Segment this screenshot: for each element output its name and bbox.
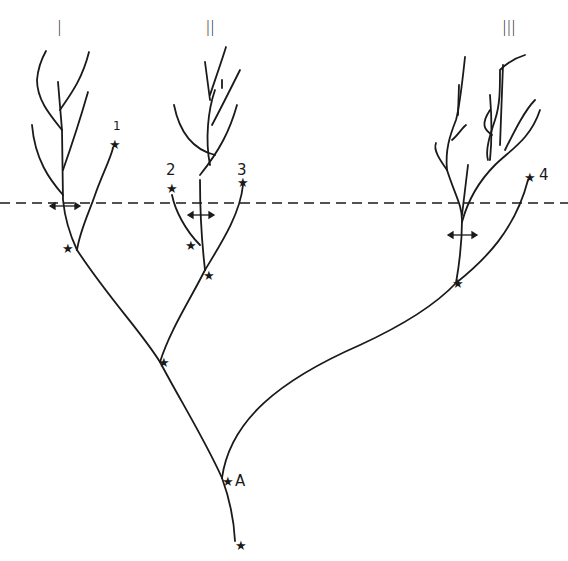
star-icon-tip-4: ★	[524, 170, 536, 185]
clade-label-II: II	[206, 18, 215, 40]
clade-II-top-right	[210, 47, 226, 95]
star-icon-root: ★	[235, 538, 247, 553]
clade-II-left-branch	[200, 105, 237, 175]
star-icon-tip-2: ★	[166, 181, 178, 196]
star-icon-I-II-node: ★	[158, 355, 170, 370]
clade-III-right-mid	[490, 95, 492, 160]
node-label-A: A	[235, 474, 245, 489]
double-arrow-clade-I	[50, 203, 80, 209]
branch-A-to-I-II-node	[160, 362, 222, 478]
clade-I-main-stem	[62, 130, 77, 250]
clade-III-left-main	[447, 57, 465, 170]
clade-III-stem	[447, 170, 462, 283]
branch-to-clade-II	[160, 270, 205, 362]
clade-III-left-twig-1	[435, 143, 447, 170]
star-icon-clade-II-inner-node: ★	[185, 238, 197, 253]
clade-I-lineage-1	[77, 148, 113, 250]
clade-I-upper-mid	[58, 82, 62, 130]
clade-label-III: III	[502, 18, 515, 40]
branch-to-clade-I	[77, 250, 160, 362]
clade-I-mid-right	[63, 92, 88, 170]
star-icon-clade-II-node: ★	[203, 268, 215, 283]
clade-II-stem	[200, 180, 205, 270]
star-icon-clade-III-node: ★	[452, 276, 464, 291]
clade-label-I: I	[58, 18, 63, 40]
star-icon-tip-1: ★	[109, 137, 121, 152]
clade-II-lineage-3	[205, 185, 243, 270]
branch-A-to-III	[222, 283, 456, 478]
tip-label-2: 2	[166, 163, 176, 178]
clade-II-top-left	[205, 62, 210, 100]
star-icon-clade-I-node: ★	[62, 241, 74, 256]
tip-label-4: 4	[539, 168, 549, 183]
clade-III-lineage-4	[456, 180, 528, 283]
clade-I-left-twig	[32, 125, 63, 195]
tip-label-1: 1	[113, 120, 121, 132]
phylogenetic-tree-diagram: ★ ★ ★ ★ ★ ★ ★ ★ ★ ★ ★	[0, 0, 568, 561]
clade-III-left-twig-3	[458, 85, 459, 115]
star-icon-A-node: ★	[222, 474, 234, 489]
tip-label-3: 3	[237, 163, 247, 178]
